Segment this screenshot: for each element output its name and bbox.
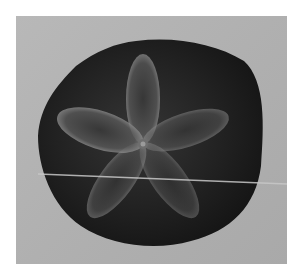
sand-dollar-photo — [16, 16, 287, 264]
sand-dollar-illustration — [16, 16, 287, 264]
